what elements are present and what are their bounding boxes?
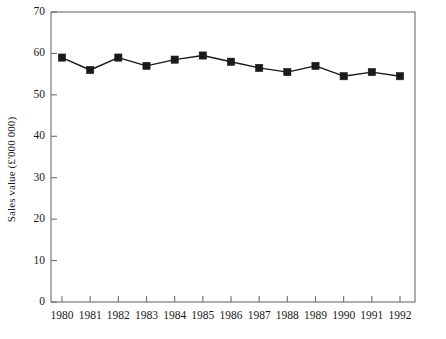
y-tick-label: 10 — [19, 255, 45, 267]
y-tick-label: 50 — [19, 89, 45, 101]
axis-frame — [51, 12, 415, 302]
y-tick-label: 20 — [19, 213, 45, 225]
plot-area — [0, 0, 446, 339]
y-tick-label: 60 — [19, 47, 45, 59]
y-tick-label: 0 — [19, 296, 45, 308]
x-tick-label: 1992 — [380, 310, 420, 322]
line-chart: Sales value (£'000 000) 010203040506070 … — [0, 0, 446, 339]
x-axis-ticks — [62, 296, 400, 302]
y-tick-label: 30 — [19, 172, 45, 184]
y-axis-ticks — [51, 12, 57, 302]
y-tick-label: 40 — [19, 130, 45, 142]
y-tick-label: 70 — [19, 6, 45, 18]
